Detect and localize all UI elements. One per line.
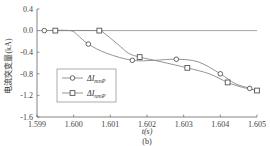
legend-square-icon bbox=[70, 91, 75, 96]
axes: 0.40.0-0.4-0.8-1.2-1.61.5991.6001.6011.6… bbox=[20, 5, 266, 129]
y-tick-label: -0.8 bbox=[20, 70, 33, 79]
x-tick-label: 1.600 bbox=[65, 120, 83, 129]
current-change-chart: 0.40.0-0.4-0.8-1.2-1.61.5991.6001.6011.6… bbox=[0, 0, 270, 146]
legend-label-subscript: nmP bbox=[94, 93, 105, 99]
y-tick-label: 0.4 bbox=[23, 5, 33, 14]
x-axis-label: t(s) bbox=[142, 127, 153, 136]
x-tick-label: 1.601 bbox=[101, 120, 119, 129]
x-tick-label: 1.604 bbox=[211, 120, 229, 129]
data-point-nmP bbox=[225, 80, 230, 85]
chart-subtitle: (b) bbox=[142, 137, 152, 146]
legend-label-subscript: mnP bbox=[94, 78, 105, 84]
y-tick-label: -0.4 bbox=[20, 48, 33, 57]
data-point-nmP bbox=[97, 28, 102, 33]
legend: ΔImnPΔInmP bbox=[57, 69, 116, 102]
x-tick-label: 1.603 bbox=[175, 120, 193, 129]
data-point-nmP bbox=[255, 88, 260, 93]
data-point-mnP bbox=[42, 28, 47, 33]
x-tick-label: 1.605 bbox=[248, 120, 266, 129]
data-point-mnP bbox=[218, 72, 223, 77]
data-point-mnP bbox=[174, 57, 179, 62]
y-tick-label: -1.2 bbox=[20, 91, 33, 100]
data-point-mnP bbox=[247, 86, 252, 91]
data-point-nmP bbox=[185, 65, 190, 70]
data-point-nmP bbox=[137, 55, 142, 60]
data-point-nmP bbox=[53, 28, 58, 33]
data-point-mnP bbox=[130, 58, 135, 63]
y-axis-label: 电流突变量(kA) bbox=[3, 38, 13, 93]
data-point-mnP bbox=[86, 42, 91, 47]
legend-circle-icon bbox=[70, 76, 75, 81]
y-tick-label: 0.0 bbox=[23, 26, 33, 35]
x-tick-label: 1.599 bbox=[28, 120, 46, 129]
